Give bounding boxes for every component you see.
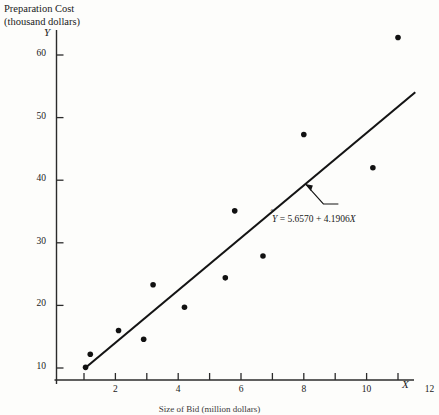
x-tick-label: 10 xyxy=(357,384,377,394)
x-axis-caption: Size of Bid (million dollars) xyxy=(0,404,419,414)
x-tick-label: 8 xyxy=(294,384,314,394)
regression-x-symbol: X xyxy=(350,214,356,224)
y-tick-label: 60 xyxy=(20,48,46,58)
data-point xyxy=(87,351,93,357)
data-point xyxy=(141,336,147,342)
callout-arrowhead xyxy=(305,184,313,191)
data-point xyxy=(150,282,156,288)
y-tick-label: 20 xyxy=(20,298,46,308)
regression-equation-text: = 5.6570 + 4.1906 xyxy=(280,214,350,224)
y-tick-label: 10 xyxy=(20,361,46,371)
data-point xyxy=(182,304,188,310)
x-tick-label: 12 xyxy=(419,384,439,394)
x-tick-label: 6 xyxy=(231,384,251,394)
x-tick-label: 4 xyxy=(168,384,188,394)
x-tick-label: 2 xyxy=(105,384,125,394)
axes-group xyxy=(55,30,420,384)
y-tick-label: 50 xyxy=(20,111,46,121)
data-point xyxy=(370,165,376,171)
data-point xyxy=(395,35,401,41)
regression-line xyxy=(84,92,415,369)
y-hat-symbol: Y xyxy=(272,214,277,224)
data-point xyxy=(232,208,238,214)
data-point xyxy=(301,132,307,138)
data-point xyxy=(83,365,89,371)
data-point xyxy=(116,328,122,334)
regression-equation-annotation: Ŷ = 5.6570 + 4.1906X xyxy=(272,214,356,224)
data-point xyxy=(260,253,266,259)
y-tick-label: 30 xyxy=(20,236,46,246)
data-points-group xyxy=(83,35,401,371)
annotation-callout-group xyxy=(305,184,338,204)
y-tick-label: 40 xyxy=(20,173,46,183)
data-point xyxy=(223,275,229,281)
regression-line-group xyxy=(84,92,415,369)
